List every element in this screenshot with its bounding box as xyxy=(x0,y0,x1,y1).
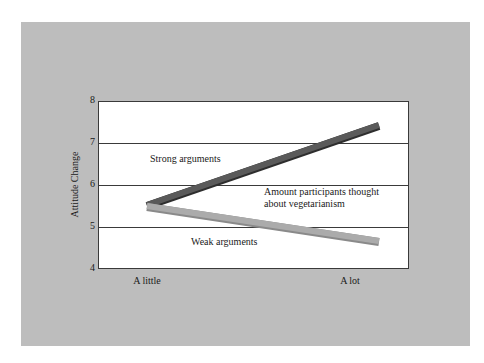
weak-arguments-label: Weak arguments xyxy=(191,236,258,248)
y-tick-5: 5 xyxy=(83,220,95,231)
y-tick-6: 6 xyxy=(83,178,95,189)
y-axis-label: Attitude Change xyxy=(69,152,80,218)
x-axis-label-line1: Amount participants thought xyxy=(264,186,379,198)
strong-arguments-label: Strong arguments xyxy=(150,153,221,165)
y-tick-7: 7 xyxy=(83,136,95,147)
y-tick-8: 8 xyxy=(83,94,95,105)
weak-arguments-line xyxy=(147,206,379,241)
x-tick-a-lot: A lot xyxy=(320,275,380,286)
y-tick-4: 4 xyxy=(83,262,95,273)
x-tick-a-little: A little xyxy=(117,275,177,286)
x-axis-label-line2: about vegetarianism xyxy=(264,198,345,210)
